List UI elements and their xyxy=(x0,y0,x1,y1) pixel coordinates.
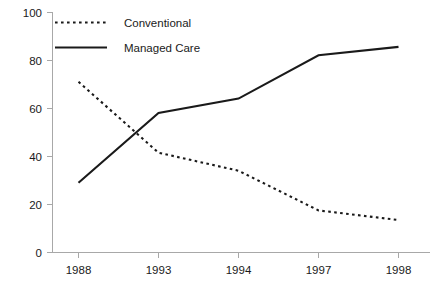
legend-label-managed-care: Managed Care xyxy=(124,42,200,54)
chart-canvas: 100 80 60 40 20 0 1988 1993 1994 1997 19… xyxy=(0,0,436,287)
series-line-conventional xyxy=(79,82,399,220)
y-axis-tick-label-80: 80 xyxy=(29,55,42,67)
legend-label-conventional: Conventional xyxy=(124,17,191,29)
series-line-managed-care xyxy=(79,47,399,183)
y-axis-tick-label-20: 20 xyxy=(29,199,42,211)
x-axis-tick-label-1993: 1993 xyxy=(146,264,172,276)
x-axis-tick-label-1997: 1997 xyxy=(306,264,332,276)
line-chart: 100 80 60 40 20 0 1988 1993 1994 1997 19… xyxy=(0,0,436,287)
y-axis-tick-label-60: 60 xyxy=(29,103,42,115)
y-axis-tick-label-100: 100 xyxy=(23,7,42,19)
x-axis-tick-label-1988: 1988 xyxy=(66,264,92,276)
x-axis-tick-label-1998: 1998 xyxy=(386,264,412,276)
y-axis-tick-label-40: 40 xyxy=(29,151,42,163)
y-axis-tick-label-0: 0 xyxy=(36,247,42,259)
x-axis-tick-label-1994: 1994 xyxy=(226,264,252,276)
chart-legend: Conventional Managed Care xyxy=(55,17,200,54)
